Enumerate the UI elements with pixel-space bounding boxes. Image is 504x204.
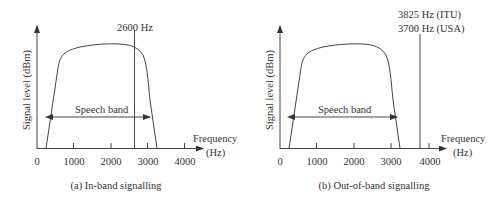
svg-text:4000: 4000 bbox=[420, 156, 441, 167]
panel-in-band: 2600 Hz Speech band Signal level (dBm) F… bbox=[21, 22, 238, 192]
band-label: Speech band bbox=[318, 104, 372, 115]
marker-label: 2600 Hz bbox=[117, 22, 153, 33]
x-tick-labels: 0 1000 2000 3000 4000 bbox=[277, 156, 440, 167]
x-axis-label: Frequency bbox=[193, 133, 238, 144]
svg-text:3000: 3000 bbox=[138, 156, 159, 167]
svg-text:4000: 4000 bbox=[175, 156, 196, 167]
speech-band-curve bbox=[46, 44, 157, 149]
caption: (a) In-band signalling bbox=[71, 180, 163, 192]
svg-text:2000: 2000 bbox=[101, 156, 122, 167]
band-label: Speech band bbox=[75, 104, 129, 115]
x-axis-label: Frequency bbox=[441, 133, 486, 144]
svg-text:1000: 1000 bbox=[307, 156, 328, 167]
svg-text:0: 0 bbox=[34, 156, 39, 167]
caption: (b) Out-of-band signalling bbox=[319, 180, 431, 192]
svg-text:1000: 1000 bbox=[64, 156, 85, 167]
svg-text:0: 0 bbox=[277, 156, 282, 167]
y-axis-label: Signal level (dBm) bbox=[264, 50, 276, 130]
svg-text:2000: 2000 bbox=[344, 156, 365, 167]
x-axis-unit: (Hz) bbox=[206, 147, 226, 159]
marker-label-itu: 3825 Hz (ITU) bbox=[398, 9, 461, 21]
svg-text:3000: 3000 bbox=[381, 156, 402, 167]
x-tick-labels: 0 1000 2000 3000 4000 bbox=[34, 156, 195, 167]
speech-band-curve bbox=[289, 44, 400, 149]
x-axis-unit: (Hz) bbox=[453, 147, 473, 159]
panel-out-of-band: 3825 Hz (ITU) 3700 Hz (USA) Speech band … bbox=[264, 9, 486, 192]
y-axis-label: Signal level (dBm) bbox=[21, 50, 33, 130]
marker-label-usa: 3700 Hz (USA) bbox=[398, 23, 465, 35]
